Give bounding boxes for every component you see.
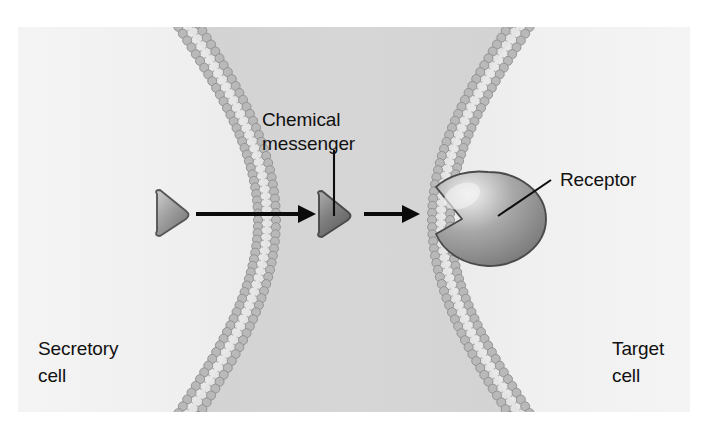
illustration-panel: ChemicalmessengerReceptorSecretorycellTa…	[18, 13, 690, 428]
panel-grain-overlay	[18, 27, 690, 412]
diagram-canvas: ChemicalmessengerReceptorSecretorycellTa…	[0, 0, 706, 432]
cell-signaling-figure: ChemicalmessengerReceptorSecretorycellTa…	[0, 0, 706, 432]
